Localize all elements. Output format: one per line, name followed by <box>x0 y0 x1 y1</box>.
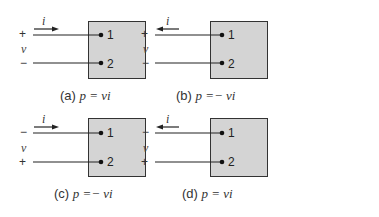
terminal-1-label: 1 <box>228 28 235 42</box>
terminal-2-label: 2 <box>228 155 235 169</box>
terminal-2-label: 2 <box>107 155 114 169</box>
current-arrow-right-icon <box>34 27 59 32</box>
voltage-label: v <box>143 141 148 156</box>
terminal-1-label: 1 <box>107 28 114 42</box>
caption: (c) p =− vi <box>54 186 113 202</box>
bottom-polarity-sign: − <box>142 57 149 69</box>
voltage-label: v <box>21 42 26 57</box>
caption: (d) p = vi <box>182 186 233 202</box>
bottom-polarity-sign: − <box>20 57 27 69</box>
terminal-1-label: 1 <box>228 126 235 140</box>
top-polarity-sign: + <box>19 28 26 40</box>
bottom-polarity-sign: + <box>19 156 26 168</box>
top-polarity-sign: − <box>20 126 27 138</box>
current-label: i <box>166 112 169 127</box>
bottom-polarity-sign: + <box>141 156 148 168</box>
top-polarity-sign: − <box>142 126 149 138</box>
current-label: i <box>42 14 45 29</box>
voltage-label: v <box>21 141 26 156</box>
current-arrow-right-icon <box>34 125 59 130</box>
top-polarity-sign: + <box>141 28 148 40</box>
terminal-1-label: 1 <box>107 126 114 140</box>
voltage-label: v <box>143 42 148 57</box>
current-label: i <box>166 14 169 29</box>
caption: (a) p = vi <box>60 88 111 104</box>
terminal-2-label: 2 <box>228 57 235 71</box>
panel-a: i + v − 1 2 (a) p = vi <box>0 0 190 108</box>
caption: (b) p =− vi <box>176 88 235 104</box>
current-label: i <box>42 112 45 127</box>
panel-b: i + v − 1 2 (b) p =− vi <box>190 0 379 108</box>
panel-d: i − v + 1 2 (d) p = vi <box>190 110 379 217</box>
terminal-2-label: 2 <box>107 57 114 71</box>
